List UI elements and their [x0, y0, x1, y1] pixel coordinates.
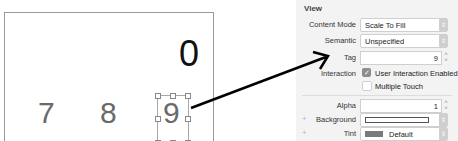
alpha-stepper[interactable]: ˄˅ [443, 99, 449, 112]
resize-handle[interactable] [170, 140, 176, 141]
resize-handle[interactable] [155, 140, 161, 141]
tint-popup[interactable]: Default ⇕ [360, 127, 448, 141]
chevron-updown-icon: ⇕ [439, 35, 447, 47]
tint-row: + Tint Default ⇕ [296, 127, 458, 141]
alpha-field[interactable]: 1 [360, 99, 442, 113]
chevron-updown-icon: ⇕ [439, 128, 447, 140]
tag-stepper[interactable]: ˄˅ [443, 51, 449, 64]
resize-handle[interactable] [155, 93, 161, 99]
resize-handle[interactable] [155, 116, 161, 122]
attributes-inspector: View Content Mode Scale To Fill ⇕ Semant… [296, 0, 458, 141]
alpha-value: 1 [434, 102, 438, 111]
multiple-touch-checkbox[interactable] [362, 81, 372, 91]
display-label[interactable]: 0 [179, 33, 199, 75]
chevron-updown-icon: ⇕ [439, 114, 447, 126]
user-interaction-label: User Interaction Enabled [375, 69, 458, 78]
tag-row: Tag 9 ˄˅ [296, 51, 458, 65]
background-color-popup[interactable]: ⇕ [360, 113, 448, 127]
background-swatch [365, 117, 429, 123]
tint-value: Default [389, 130, 413, 139]
semantic-row: Semantic Unspecified ⇕ [296, 34, 458, 48]
content-mode-popup[interactable]: Scale To Fill ⇕ [360, 18, 448, 32]
multiple-touch-row: Multiple Touch [296, 80, 458, 94]
semantic-label: Semantic [325, 36, 356, 45]
resize-handle[interactable] [185, 116, 191, 122]
content-mode-label: Content Mode [309, 20, 356, 29]
interaction-label: Interaction [321, 69, 356, 78]
background-row: + Background ⇕ [296, 113, 458, 127]
tag-value: 9 [434, 54, 438, 63]
alpha-row: Alpha 1 ˄˅ [296, 99, 458, 113]
semantic-value: Unspecified [365, 37, 404, 46]
section-title: View [304, 4, 322, 13]
tint-label: Tint [344, 129, 356, 138]
alpha-label: Alpha [337, 101, 356, 110]
tint-swatch [365, 131, 383, 137]
background-label: Background [316, 115, 356, 124]
selection-box[interactable] [157, 95, 189, 141]
button-7[interactable]: 7 [38, 96, 55, 130]
plus-icon[interactable]: + [302, 114, 307, 123]
divider [302, 95, 452, 96]
resize-handle[interactable] [170, 93, 176, 99]
chevron-updown-icon: ⇕ [439, 19, 447, 31]
storyboard-scene: 0 7 8 9 [4, 12, 214, 141]
content-mode-row: Content Mode Scale To Fill ⇕ [296, 18, 458, 32]
multiple-touch-label: Multiple Touch [375, 82, 423, 91]
content-mode-value: Scale To Fill [365, 21, 405, 30]
resize-handle[interactable] [185, 140, 191, 141]
resize-handle[interactable] [185, 93, 191, 99]
semantic-popup[interactable]: Unspecified ⇕ [360, 34, 448, 48]
plus-icon[interactable]: + [302, 128, 307, 137]
tag-label: Tag [344, 53, 356, 62]
user-interaction-checkbox[interactable]: ✓ [362, 68, 371, 77]
button-8[interactable]: 8 [100, 96, 117, 130]
tag-field[interactable]: 9 [360, 51, 442, 65]
interaction-row: Interaction ✓ User Interaction Enabled [296, 67, 458, 81]
